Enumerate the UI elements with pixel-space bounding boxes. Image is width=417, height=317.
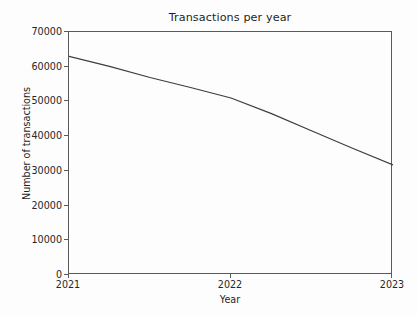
x-axis-tick-mark: [391, 274, 392, 278]
line-series-svg: [69, 32, 393, 275]
plot-area: [68, 31, 392, 274]
x-axis-tick-label: 2021: [38, 279, 98, 290]
chart-figure: Transactions per year Number of transact…: [0, 0, 417, 317]
y-axis-tick-marks: [0, 31, 68, 274]
x-axis-tick-mark: [230, 274, 231, 278]
line-series-path: [69, 56, 393, 165]
chart-title: Transactions per year: [68, 11, 392, 24]
x-axis-title: Year: [68, 294, 392, 305]
x-axis-tick-labels: 202120222023: [68, 279, 392, 295]
x-axis-tick-mark: [68, 274, 69, 278]
x-axis-tick-label: 2022: [200, 279, 260, 290]
x-axis-tick-label: 2023: [362, 279, 417, 290]
